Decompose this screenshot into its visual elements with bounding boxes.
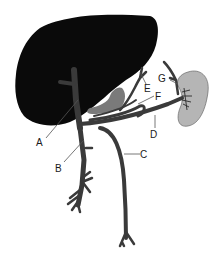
portal-system-diagram: A B C D E F G bbox=[0, 0, 223, 265]
label-c: C bbox=[140, 149, 147, 160]
label-b: B bbox=[55, 163, 62, 174]
label-e: E bbox=[144, 83, 151, 94]
superior-mesenteric-vein bbox=[78, 128, 84, 205]
label-a: A bbox=[36, 137, 43, 148]
label-g: G bbox=[158, 73, 166, 84]
label-d: D bbox=[150, 129, 157, 140]
short-gastric-veins bbox=[164, 62, 178, 94]
inferior-mesenteric-vein bbox=[100, 128, 126, 238]
label-f: F bbox=[155, 91, 161, 102]
